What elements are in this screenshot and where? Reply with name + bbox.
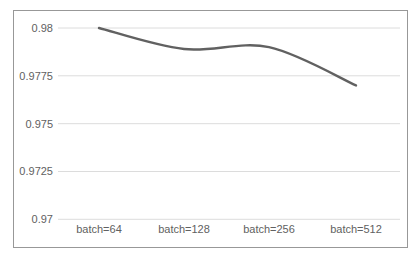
series-line: [99, 28, 356, 85]
x-tick-label: batch=64: [57, 222, 141, 236]
y-tick-label: 0.975: [13, 117, 53, 131]
y-tick-label: 0.9775: [13, 69, 53, 83]
x-tick-label: batch=128: [142, 222, 226, 236]
x-tick-label: batch=256: [227, 222, 311, 236]
y-tick-label: 0.9725: [13, 164, 53, 178]
chart-canvas: 0.980.97750.9750.97250.97 batch=64batch=…: [0, 0, 420, 262]
y-tick-label: 0.98: [13, 21, 53, 35]
y-tick-label: 0.97: [13, 212, 53, 226]
x-tick-label: batch=512: [314, 222, 398, 236]
